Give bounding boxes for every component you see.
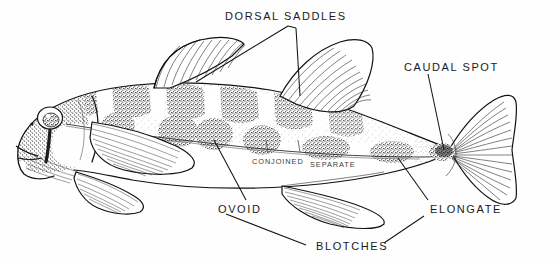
pupil bbox=[43, 113, 59, 127]
dorsal-saddle bbox=[220, 87, 259, 124]
second-dorsal-fin-outline bbox=[280, 40, 373, 112]
label-caudal-spot: CAUDAL SPOT bbox=[404, 61, 499, 73]
label-ovoid: OVOID bbox=[218, 203, 261, 215]
pale-interspace bbox=[205, 86, 220, 122]
leader-dorsal-saddles-join bbox=[288, 26, 296, 28]
lateral-blotch-elongate bbox=[302, 136, 350, 160]
label-dorsal-saddles: DORSAL SADDLES bbox=[225, 10, 347, 22]
nostril bbox=[30, 122, 33, 125]
eye-highlight bbox=[46, 114, 51, 118]
dorsal-saddle bbox=[166, 84, 205, 120]
label-separate: SEPARATE bbox=[310, 160, 356, 169]
label-conjoined: CONJOINED bbox=[252, 157, 304, 166]
caudal-spot-group bbox=[429, 143, 455, 161]
leader-blotches-right bbox=[384, 216, 424, 243]
leader-caudal-spot bbox=[428, 74, 444, 150]
caudal-spot-core bbox=[435, 145, 453, 157]
fish-anatomy-figure: DORSAL SADDLES CAUDAL SPOT CONJOINED SEP… bbox=[0, 0, 555, 265]
second-dorsal-fin bbox=[280, 40, 373, 112]
leader-blotches-left bbox=[226, 214, 306, 245]
label-elongate: ELONGATE bbox=[430, 203, 502, 215]
pale-interspace bbox=[259, 92, 274, 127]
lateral-blotch-elongate bbox=[370, 141, 414, 163]
caudal-fin bbox=[446, 95, 517, 204]
label-blotches: BLOTCHES bbox=[316, 240, 388, 252]
